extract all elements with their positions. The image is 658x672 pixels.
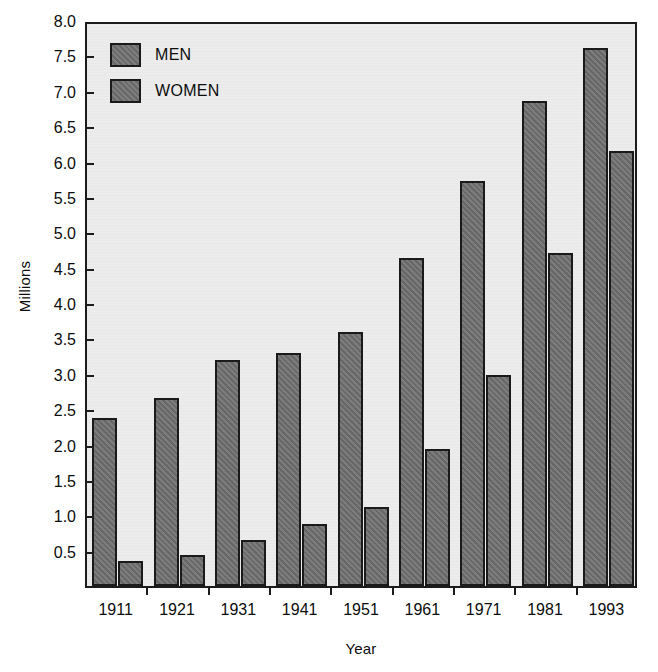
y-axis-tick (85, 552, 94, 554)
y-axis-label: 7.0 (24, 85, 76, 101)
x-axis-tick (453, 588, 455, 595)
x-axis-tick (576, 588, 578, 595)
bar-chart: Millions 8.07.57.06.56.05.55.04.54.03.53… (0, 0, 658, 672)
y-axis-tick (85, 127, 94, 129)
y-axis-label-wrap: 8.0 (16, 14, 76, 30)
y-axis-label: 2.0 (24, 439, 76, 455)
y-axis-tick (85, 339, 94, 341)
legend-swatch (110, 43, 141, 67)
y-axis-tick (85, 198, 94, 200)
y-axis-label-wrap: 0.5 (16, 545, 76, 561)
y-axis-label: 3.0 (24, 368, 76, 384)
bar (460, 181, 485, 586)
y-axis-label: 1.0 (24, 509, 76, 525)
y-axis-label-wrap: 5.5 (16, 191, 76, 207)
bar (548, 253, 573, 586)
x-axis-label: 1931 (203, 601, 273, 619)
bar (486, 375, 511, 586)
y-axis-label-wrap: 4.5 (16, 262, 76, 278)
y-axis-label: 3.5 (24, 332, 76, 348)
bar (609, 151, 634, 586)
y-axis-label: 4.5 (24, 262, 76, 278)
bar (522, 101, 547, 586)
y-axis-label-wrap: 4.0 (16, 297, 76, 313)
legend-swatch (110, 79, 141, 103)
x-axis-tick (208, 588, 210, 595)
bar (241, 540, 266, 586)
y-axis-label-wrap: 5.0 (16, 226, 76, 242)
x-axis-label: 1951 (326, 601, 396, 619)
y-axis-tick (85, 481, 94, 483)
bar (583, 48, 608, 586)
bar (215, 360, 240, 586)
x-axis-title: Year (85, 640, 637, 657)
bar (180, 555, 205, 586)
y-axis-tick (85, 233, 94, 235)
y-axis-tick (85, 56, 94, 58)
y-axis-tick (85, 516, 94, 518)
y-axis-label: 0.5 (24, 545, 76, 561)
y-axis-label-wrap: 3.5 (16, 332, 76, 348)
bar (276, 353, 301, 586)
legend-label: MEN (155, 47, 191, 63)
y-axis-label: 7.5 (24, 49, 76, 65)
y-axis-label: 4.0 (24, 297, 76, 313)
y-axis-label-wrap: 7.5 (16, 49, 76, 65)
chart-legend: MENWOMEN (110, 42, 300, 114)
x-axis-tick (392, 588, 394, 595)
bar (399, 258, 424, 586)
legend-item: MEN (110, 42, 300, 68)
bar (338, 332, 363, 586)
bar (425, 449, 450, 586)
bar (118, 561, 143, 586)
y-axis-label-wrap: 1.0 (16, 509, 76, 525)
legend-label: WOMEN (155, 83, 220, 99)
y-axis-label-wrap: 7.0 (16, 85, 76, 101)
y-axis-tick (85, 92, 94, 94)
y-axis-tick (85, 163, 94, 165)
y-axis-label-wrap: 6.0 (16, 156, 76, 172)
bar (364, 507, 389, 586)
x-axis-label: 1911 (81, 601, 151, 619)
y-axis-label-wrap: 2.0 (16, 439, 76, 455)
x-axis-label: 1971 (449, 601, 519, 619)
y-axis-label-wrap: 3.0 (16, 368, 76, 384)
x-axis-tick (330, 588, 332, 595)
y-axis-title: Millions (16, 227, 33, 347)
y-axis-tick (85, 269, 94, 271)
bar (154, 398, 179, 586)
bar (92, 418, 117, 586)
y-axis-label: 6.0 (24, 156, 76, 172)
x-axis-tick (514, 588, 516, 595)
x-axis-label: 1993 (571, 601, 641, 619)
y-axis-label-wrap: 6.5 (16, 120, 76, 136)
y-axis-label-wrap: 1.5 (16, 474, 76, 490)
y-axis-label: 5.0 (24, 226, 76, 242)
legend-item: WOMEN (110, 78, 300, 104)
x-axis-label: 1981 (510, 601, 580, 619)
y-axis-tick (85, 304, 94, 306)
y-axis-label: 6.5 (24, 120, 76, 136)
y-axis-label: 8.0 (24, 14, 76, 30)
x-axis-label: 1941 (265, 601, 335, 619)
y-axis-tick (85, 446, 94, 448)
x-axis-tick (146, 588, 148, 595)
y-axis-label: 1.5 (24, 474, 76, 490)
x-axis-label: 1961 (387, 601, 457, 619)
y-axis-tick (85, 375, 94, 377)
x-axis-label: 1921 (142, 601, 212, 619)
y-axis-label-wrap: 2.5 (16, 403, 76, 419)
x-axis-tick (269, 588, 271, 595)
y-axis-label: 2.5 (24, 403, 76, 419)
y-axis-tick (85, 410, 94, 412)
bar (302, 524, 327, 586)
y-axis-label: 5.5 (24, 191, 76, 207)
